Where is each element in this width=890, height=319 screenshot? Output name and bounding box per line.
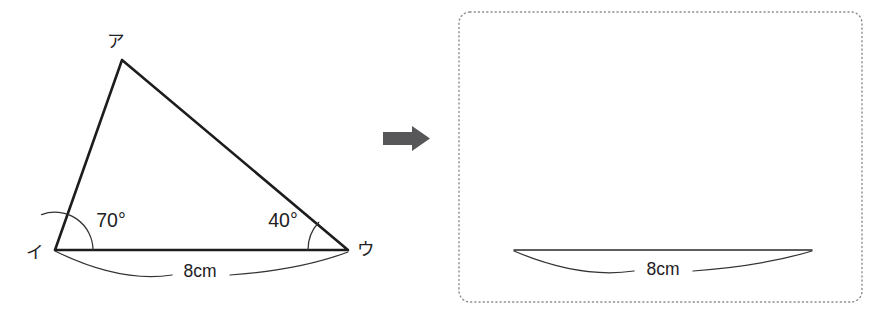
base-measure-arc-right (230, 252, 348, 275)
worksheet-svg: ア イ ウ 70° 40° 8cm 8cm (0, 0, 890, 319)
given-triangle-group: ア イ ウ 70° 40° 8cm (26, 31, 375, 281)
answer-workspace-group: 8cm (459, 12, 862, 302)
angle-label-70: 70° (96, 209, 126, 231)
vertex-label-i: イ (26, 242, 44, 262)
vertex-label-a: ア (107, 31, 125, 51)
right-arrow-icon (383, 126, 430, 151)
figure-root: ア イ ウ 70° 40° 8cm 8cm (0, 0, 890, 319)
angle-label-40: 40° (268, 209, 298, 231)
segment-measure-arc-right (693, 251, 812, 271)
measure-label-base-right: 8cm (646, 259, 679, 279)
angle-arc-40 (308, 222, 319, 250)
segment-measure-arc-left (514, 251, 634, 273)
measure-label-base-left: 8cm (183, 261, 216, 281)
vertex-label-u: ウ (357, 239, 375, 259)
base-measure-arc-left (55, 251, 172, 277)
